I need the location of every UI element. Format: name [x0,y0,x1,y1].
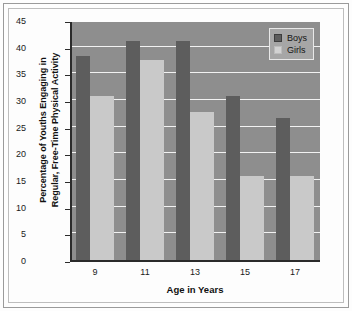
chart-figure: 051015202530354045 Percentage of Youths … [0,0,352,311]
x-axis-title: Age in Years [70,284,320,295]
x-axis-tick-label: 15 [225,267,265,277]
legend-item-girls: Girls [274,44,307,56]
x-axis-tick-label: 11 [125,267,165,277]
bar-boys [226,96,240,260]
bar-girls [138,60,164,260]
y-axis-title: Percentage of Youths Engaging in Regular… [37,15,61,245]
bar-girls [188,112,214,260]
y-axis-tick-label: 20 [0,150,26,159]
bar-girls [288,176,314,260]
legend-label-boys: Boys [287,33,307,43]
y-axis-tick-label: 0 [0,257,26,266]
x-axis-tick-label: 13 [175,267,215,277]
y-axis-tick-label: 35 [0,70,26,79]
y-axis-tick-label: 5 [0,230,26,239]
y-axis-tick-label: 10 [0,204,26,213]
y-axis-tick-label: 15 [0,177,26,186]
gridline [72,72,320,73]
bar-boys [276,118,290,260]
bar-boys [126,41,140,260]
x-axis-tick-label: 9 [75,267,115,277]
bar-girls [238,176,264,260]
y-axis-tick-label: 45 [0,17,26,26]
y-axis-tick-label: 40 [0,44,26,53]
bar-girls [88,96,114,260]
y-axis-title-line-1: Percentage of Youths Engaging in [37,15,49,245]
legend-label-girls: Girls [287,45,306,55]
y-axis-tick-label: 30 [0,97,26,106]
legend-swatch-girls-icon [274,46,282,54]
bar-boys [176,41,190,260]
legend-item-boys: Boys [274,32,307,44]
legend-swatch-boys-icon [274,34,282,42]
bar-boys [76,56,90,260]
chart-legend: Boys Girls [269,28,314,60]
y-axis-title-line-2: Regular, Free-Time Physical Activity [49,15,61,245]
y-axis-tick-mark [65,262,70,263]
plot-area: Boys Girls [70,22,320,262]
y-axis-tick-label: 25 [0,124,26,133]
x-axis-tick-label: 17 [275,267,315,277]
